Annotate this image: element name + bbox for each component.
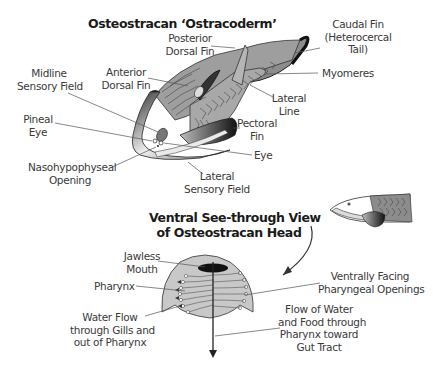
- label-lateral-line: Lateral Line: [268, 92, 310, 117]
- main-title: Osteostracan ‘Ostracoderm’: [88, 16, 277, 31]
- label-midline-sensory-field: Midline Sensory Field: [17, 67, 81, 92]
- label-lateral-sensory-field: Lateral Sensory Field: [182, 170, 252, 195]
- label-ventrally-facing-pharyngeal-openings: Ventrally Facing Pharyngeal Openings: [318, 270, 422, 295]
- label-posterior-dorsal-fin: Posterior Dorsal Fin: [160, 32, 220, 57]
- label-jawless-mouth: Jawless Mouth: [122, 250, 162, 275]
- label-pineal-eye: Pineal Eye: [20, 113, 56, 138]
- label-eye: Eye: [254, 149, 278, 162]
- label-caudal-fin: Caudal Fin (Heterocercal Tail): [318, 18, 398, 56]
- label-myomeres: Myomeres: [322, 67, 382, 80]
- arrowhead-icon: [283, 266, 292, 275]
- label-anterior-dorsal-fin: Anterior Dorsal Fin: [98, 66, 154, 91]
- ventral-title-line2: of Osteostracan Head: [149, 225, 309, 240]
- label-pharynx: Pharynx: [94, 280, 134, 293]
- ventral-head-view: [162, 255, 253, 358]
- label-water-flow-gills: Water Flow through Gills and out of Phar…: [70, 311, 150, 349]
- ventral-title-line1: Ventral See-through View: [149, 210, 309, 225]
- small-fish-side-view: [330, 194, 412, 227]
- label-nasohypophyseal-opening: Nasohypophyseal Opening: [28, 161, 112, 186]
- label-pectoral-fin: Pectoral Fin: [232, 117, 282, 142]
- ventral-title: Ventral See-through View of Osteostracan…: [149, 210, 309, 240]
- label-flow-water-food: Flow of Water and Food through Pharynx t…: [278, 303, 360, 353]
